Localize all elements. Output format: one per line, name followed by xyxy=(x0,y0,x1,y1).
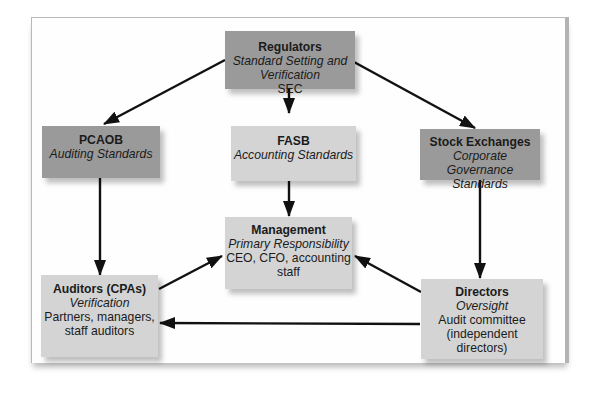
node-title: FASB xyxy=(231,134,356,148)
node-subtitle: Accounting Standards xyxy=(231,148,356,162)
node-subtitle: Oversight xyxy=(421,299,543,313)
node-title: Stock Exchanges xyxy=(420,135,540,149)
node-auditors: Auditors (CPAs) Verification Partners, m… xyxy=(41,275,158,357)
node-pcaob: PCAOB Auditing Standards xyxy=(42,126,160,178)
node-subtitle: Verification xyxy=(41,296,158,310)
node-subtitle: Corporate Governance Standards xyxy=(420,149,540,191)
node-detail: Audit committee (independent directors) xyxy=(421,313,543,355)
node-regulators: Regulators Standard Setting and Verifica… xyxy=(225,31,355,89)
node-stock-exchanges: Stock Exchanges Corporate Governance Sta… xyxy=(420,129,540,180)
node-management: Management Primary Responsibility CEO, C… xyxy=(225,217,352,289)
node-title: Auditors (CPAs) xyxy=(41,282,158,296)
node-directors: Directors Oversight Audit committee (ind… xyxy=(421,279,543,359)
node-title: Directors xyxy=(421,285,543,299)
node-detail: Partners, managers, staff auditors xyxy=(41,310,158,338)
node-subtitle: Auditing Standards xyxy=(42,147,160,161)
node-detail: CEO, CFO, accounting staff xyxy=(225,251,352,279)
node-title: Regulators xyxy=(225,40,355,54)
node-detail: SEC xyxy=(225,82,355,96)
node-fasb: FASB Accounting Standards xyxy=(231,126,356,181)
node-title: Management xyxy=(225,223,352,237)
node-subtitle: Standard Setting and Verification xyxy=(225,54,355,82)
node-subtitle: Primary Responsibility xyxy=(225,237,352,251)
node-title: PCAOB xyxy=(42,133,160,147)
